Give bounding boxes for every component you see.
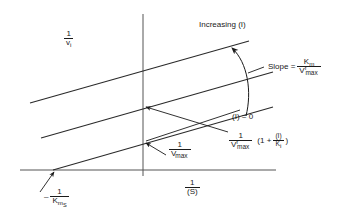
km-intercept-sign: – bbox=[44, 193, 48, 201]
slope-label-text: Slope = bbox=[268, 63, 295, 71]
data-lines bbox=[30, 41, 273, 170]
increasing-inhibitor-label: Increasing (I) bbox=[199, 21, 246, 29]
slope-annotation: Slope = Km Vfmax bbox=[268, 58, 321, 76]
vmax-intercept-pointer bbox=[146, 143, 166, 155]
km-intercept-denominator: KmS bbox=[50, 197, 68, 205]
factor-denominator: Ki bbox=[273, 141, 283, 148]
y-axis-label-denominator: vi bbox=[64, 39, 73, 47]
slope-denominator: Vfmax bbox=[297, 67, 320, 75]
vmax-intercept-label: 1 Vmax bbox=[169, 141, 191, 159]
inhibitor-zero-label: (I) = 0 bbox=[232, 113, 253, 121]
apparent-intercept-denominator: Vfmax bbox=[229, 141, 252, 149]
line-mid-inhibitor bbox=[41, 72, 273, 138]
factor-open-paren: (1 + bbox=[257, 137, 271, 145]
slope-leader-line bbox=[248, 67, 264, 73]
figure-canvas: 1 vi 1 (S) Increasing (I) Slope = Km Vfm… bbox=[0, 0, 346, 223]
inhibitor-zero-guide bbox=[146, 110, 240, 141]
line-high-inhibitor bbox=[30, 41, 249, 103]
x-axis-label: 1 (S) bbox=[185, 179, 200, 197]
x-axis-label-denominator: (S) bbox=[185, 188, 200, 196]
factor-close-paren: ) bbox=[286, 137, 289, 145]
apparent-intercept-pointer bbox=[146, 107, 228, 132]
y-axis-label: 1 vi bbox=[64, 30, 73, 48]
increasing-inhibitor-arrow bbox=[232, 48, 249, 116]
km-intercept-expression: – 1 KmS bbox=[44, 188, 69, 206]
apparent-intercept-expression: 1 Vfmax (1 + (I) Ki ) bbox=[229, 132, 288, 150]
vmax-intercept-denominator: Vmax bbox=[169, 150, 191, 158]
